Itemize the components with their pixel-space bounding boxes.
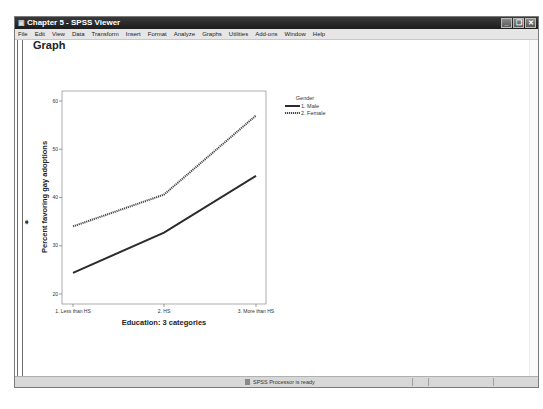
title-bar: ▣ Chapter 5 - SPSS Viewer _ ❐ ✕ [15, 17, 538, 29]
line-chart[interactable]: 2030405060 1. Less than HS2. HS3. More t… [15, 40, 532, 379]
menu-edit[interactable]: Edit [35, 29, 45, 39]
series-line-female [73, 116, 256, 227]
menu-add-ons[interactable]: Add-ons [255, 29, 277, 39]
minimize-icon: _ [505, 19, 509, 26]
y-axis-title: Percent favoring gay adoptions [40, 141, 49, 253]
menu-utilities[interactable]: Utilities [229, 29, 248, 39]
x-tick-label: 2. HS [158, 308, 171, 314]
spss-viewer-window: ▣ Chapter 5 - SPSS Viewer _ ❐ ✕ File Edi… [14, 16, 539, 388]
menu-help[interactable]: Help [313, 29, 325, 39]
output-pane: Graph ➧ 2030405060 1. Less than HS2. HS3… [15, 40, 530, 377]
menu-insert[interactable]: Insert [126, 29, 141, 39]
legend-label-male: 1. Male [301, 103, 319, 109]
plot-area [62, 91, 266, 304]
menu-transform[interactable]: Transform [92, 29, 119, 39]
series-lines [73, 116, 256, 273]
legend: Gender 1. Male 2. Female [285, 95, 325, 116]
restore-button[interactable]: ❐ [513, 18, 524, 28]
status-separator [428, 378, 429, 386]
x-axis: 1. Less than HS2. HS3. More than HS [55, 304, 275, 314]
app-icon: ▣ [18, 19, 25, 27]
series-line-male [73, 176, 256, 273]
menu-format[interactable]: Format [148, 29, 167, 39]
status-bar: SPSS Processor is ready [15, 376, 538, 387]
y-tick-label: 50 [52, 146, 58, 152]
menu-view[interactable]: View [52, 29, 65, 39]
x-tick-label: 3. More than HS [238, 308, 275, 314]
status-separator [412, 378, 413, 386]
status-separator [493, 378, 494, 386]
close-button[interactable]: ✕ [525, 18, 536, 28]
restore-icon: ❐ [516, 19, 522, 26]
y-tick-label: 40 [52, 194, 58, 200]
y-axis: 2030405060 [52, 98, 62, 297]
menu-bar: File Edit View Data Transform Insert For… [15, 29, 538, 40]
y-tick-label: 20 [52, 291, 58, 297]
minimize-button[interactable]: _ [501, 18, 512, 28]
legend-label-female: 2. Female [301, 110, 325, 116]
menu-graphs[interactable]: Graphs [202, 29, 222, 39]
x-axis-title: Education: 3 categories [122, 318, 207, 327]
status-text: SPSS Processor is ready [253, 377, 315, 387]
menu-file[interactable]: File [18, 29, 28, 39]
vertical-scrollbar[interactable] [529, 40, 538, 377]
x-tick-label: 1. Less than HS [55, 308, 91, 314]
window-title: Chapter 5 - SPSS Viewer [27, 17, 120, 29]
menu-window[interactable]: Window [285, 29, 306, 39]
processor-icon [245, 379, 250, 385]
menu-data[interactable]: Data [72, 29, 85, 39]
menu-analyze[interactable]: Analyze [174, 29, 195, 39]
y-tick-label: 30 [52, 242, 58, 248]
legend-title: Gender [296, 95, 315, 101]
y-tick-label: 60 [52, 98, 58, 104]
close-icon: ✕ [528, 19, 534, 26]
